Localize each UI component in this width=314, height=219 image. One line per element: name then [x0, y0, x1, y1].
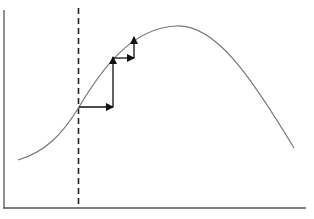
objective-curve: [18, 26, 294, 160]
hill-climbing-diagram: [0, 0, 314, 219]
